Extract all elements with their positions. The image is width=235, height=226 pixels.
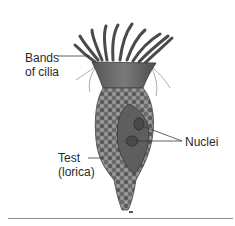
nucleus-1 xyxy=(134,118,144,130)
cilia-bands xyxy=(75,24,172,63)
tintinnid-diagram: Bands of cilia Test (lorica) Nuclei xyxy=(0,0,235,226)
label-test-lorica: Test (lorica) xyxy=(58,151,95,179)
label-nuclei: Nuclei xyxy=(185,135,218,149)
label-test-line1: Test xyxy=(58,151,95,165)
label-bands-of-cilia: Bands of cilia xyxy=(25,51,59,79)
label-bands-line2: of cilia xyxy=(25,65,59,79)
label-bands-line1: Bands xyxy=(25,51,59,65)
label-test-line2: (lorica) xyxy=(58,165,95,179)
bottom-divider xyxy=(8,218,233,219)
oral-collar xyxy=(92,62,156,88)
speck xyxy=(129,211,133,213)
tintinnid-illustration xyxy=(0,0,235,226)
